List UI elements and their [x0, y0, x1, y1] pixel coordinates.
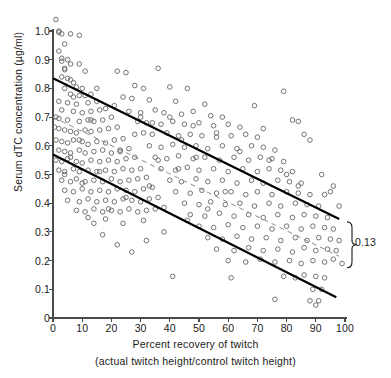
scatter-chart-figure: 00.10.20.30.40.50.60.70.80.91.0 01020304… — [0, 0, 391, 378]
data-point — [71, 166, 76, 171]
data-point — [229, 276, 234, 281]
data-point — [238, 201, 243, 206]
data-point — [97, 108, 102, 113]
data-point — [132, 132, 137, 137]
upper-limit-line — [53, 78, 339, 219]
data-point — [100, 118, 105, 123]
data-point — [205, 179, 210, 184]
data-point — [57, 168, 62, 173]
data-point — [334, 248, 339, 253]
data-point — [314, 274, 319, 279]
data-point — [86, 142, 91, 147]
data-point — [235, 234, 240, 239]
data-point — [130, 96, 135, 101]
data-point — [115, 159, 120, 164]
data-point — [316, 235, 321, 240]
data-point — [314, 214, 319, 219]
data-point — [261, 215, 266, 220]
data-point — [217, 211, 222, 216]
data-point — [89, 189, 94, 194]
data-point — [65, 100, 70, 105]
data-point — [121, 166, 126, 171]
scatter-points — [52, 17, 344, 307]
data-point — [130, 168, 135, 173]
data-point — [325, 247, 330, 252]
data-point — [77, 62, 82, 67]
data-point — [261, 248, 266, 253]
data-point — [97, 128, 102, 133]
data-point — [74, 177, 79, 182]
data-point — [203, 102, 208, 107]
data-point — [83, 128, 88, 133]
data-point — [311, 258, 316, 263]
data-point — [115, 243, 120, 248]
data-point — [322, 225, 327, 230]
data-point — [59, 59, 64, 64]
data-point — [130, 250, 135, 255]
data-point — [276, 212, 281, 217]
data-point — [273, 297, 278, 302]
data-point — [205, 207, 210, 212]
data-point — [159, 122, 164, 127]
data-point — [264, 235, 269, 240]
data-point — [165, 156, 170, 161]
data-point — [115, 125, 120, 130]
data-point — [68, 129, 73, 134]
data-point — [89, 109, 94, 114]
data-point — [68, 92, 73, 97]
data-point — [208, 199, 213, 204]
data-point — [182, 201, 187, 206]
data-point — [135, 210, 140, 215]
data-point — [173, 189, 178, 194]
data-point — [86, 197, 91, 202]
data-point — [147, 144, 152, 149]
data-point — [80, 161, 85, 166]
data-point — [89, 158, 94, 163]
data-point — [176, 154, 181, 159]
data-point — [203, 155, 208, 160]
data-point — [299, 181, 304, 186]
data-point — [197, 168, 202, 173]
data-point — [261, 126, 266, 131]
data-point — [308, 192, 313, 197]
data-point — [71, 80, 76, 85]
data-point — [65, 57, 70, 62]
data-point — [71, 109, 76, 114]
data-point — [194, 177, 199, 182]
data-point — [284, 224, 289, 229]
data-point — [267, 166, 272, 171]
data-point — [226, 169, 231, 174]
data-point — [100, 232, 105, 237]
data-point — [144, 175, 149, 180]
data-point — [54, 138, 59, 143]
data-point — [322, 260, 327, 265]
data-point — [57, 49, 62, 54]
data-point — [229, 133, 234, 138]
data-point — [68, 32, 73, 37]
data-point — [299, 227, 304, 232]
data-point — [65, 118, 70, 123]
data-point — [235, 181, 240, 186]
data-point — [296, 119, 301, 124]
data-point — [243, 260, 248, 265]
data-point — [100, 148, 105, 153]
data-point — [302, 132, 307, 137]
data-point — [59, 139, 64, 144]
data-point — [77, 148, 82, 153]
data-point — [62, 172, 67, 177]
data-point — [109, 115, 114, 120]
data-point — [182, 145, 187, 150]
x-axis-title: Percent recovery of twitch — [0, 338, 391, 350]
data-point — [62, 149, 67, 154]
data-point — [150, 132, 155, 137]
data-point — [252, 103, 257, 108]
data-point — [71, 138, 76, 143]
data-point — [322, 192, 327, 197]
data-point — [62, 188, 67, 193]
data-point — [103, 168, 108, 173]
data-point — [118, 210, 123, 215]
data-point — [290, 118, 295, 123]
data-point — [127, 178, 132, 183]
data-point — [173, 99, 178, 104]
data-point — [132, 189, 137, 194]
